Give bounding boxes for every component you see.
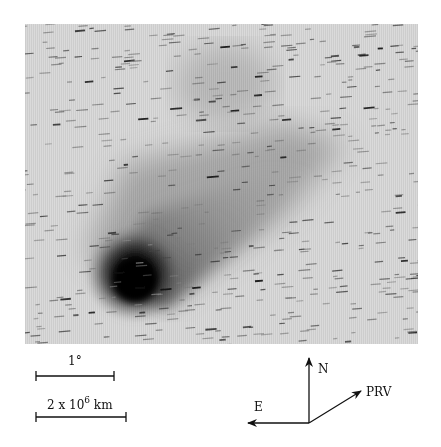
scale-label-distance: 2 x 106 km xyxy=(47,396,113,411)
north-label: N xyxy=(318,363,329,375)
distance-unit: km xyxy=(90,398,112,412)
distance-mantissa: 2 x 10 xyxy=(47,398,84,412)
scale-bar-distance xyxy=(36,412,126,422)
scale-label-degree: 1° xyxy=(68,355,82,367)
annotations-layer xyxy=(0,0,441,447)
east-label: E xyxy=(254,401,263,413)
scale-bar-degree xyxy=(36,371,114,381)
comet-figure: 1° 2 x 106 km N E PRV xyxy=(0,0,441,447)
velocity-label: PRV xyxy=(366,386,391,398)
compass-rose xyxy=(248,358,361,423)
velocity-arrow-icon xyxy=(309,391,361,423)
